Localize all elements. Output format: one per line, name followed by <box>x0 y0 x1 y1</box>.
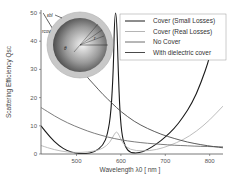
y-tick-label: 0 <box>34 151 38 157</box>
y-ticks: 01020304050 <box>30 10 41 157</box>
y-tick-label: 40 <box>30 38 37 44</box>
legend-label: With dielectric cover <box>153 49 212 56</box>
inset-label-rcov: rcov <box>42 29 51 34</box>
inset-label-eps: εbl <box>47 13 53 18</box>
x-tick-label: 800 <box>205 158 216 164</box>
legend-label: Cover (Small Losses) <box>153 17 215 25</box>
legend-label: No Cover <box>153 38 181 45</box>
scattering-efficiency-chart: εbl rcov r θ 01020304050 500600700800 Wa… <box>0 0 236 189</box>
legend-label: Cover (Real Losses) <box>153 28 212 36</box>
series-line-2 <box>41 108 223 147</box>
y-tick-label: 10 <box>30 123 37 129</box>
y-axis-title: Scattering Efficiency Qsc <box>5 45 13 118</box>
x-tick-label: 500 <box>72 158 83 164</box>
y-tick-label: 50 <box>30 10 37 16</box>
series-line-1 <box>41 106 223 152</box>
x-tick-label: 600 <box>116 158 127 164</box>
y-tick-label: 20 <box>30 95 37 101</box>
x-axis-title: Wavelength λ0 [ nm ] <box>100 166 161 174</box>
x-ticks: 500600700800 <box>72 154 216 164</box>
x-tick-label: 700 <box>160 158 171 164</box>
inset-sphere-diagram: εbl rcov r θ <box>42 12 113 78</box>
y-tick-label: 30 <box>30 66 37 72</box>
legend: Cover (Small Losses)Cover (Real Losses)N… <box>120 14 226 60</box>
